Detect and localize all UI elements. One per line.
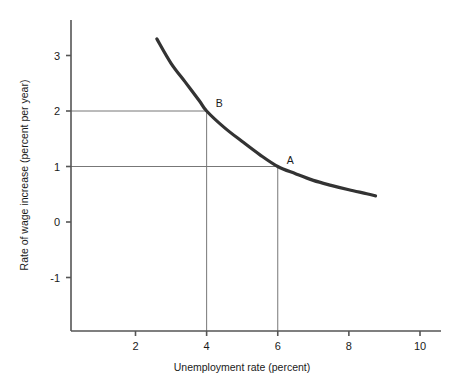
x-axis-tick-label: 10: [414, 340, 426, 352]
point-label-b: B: [216, 97, 223, 109]
y-axis-tick-label: 2: [54, 105, 60, 117]
x-axis-tick-label: 6: [275, 340, 281, 352]
y-axis-tick-label: 0: [54, 216, 60, 228]
x-axis-tick-label: 2: [132, 340, 138, 352]
x-axis-tick-label: 8: [346, 340, 352, 352]
y-axis-title: Rate of wage increase (percent per year): [18, 80, 30, 271]
point-label-a: A: [287, 154, 294, 166]
y-axis-tick-label: -1: [50, 272, 60, 284]
phillips-curve-chart: 3210-1 246810 B A Unemployment rate (per…: [0, 0, 464, 390]
chart-canvas: 3210-1 246810 B A Unemployment rate (per…: [0, 0, 464, 390]
y-axis-tick-label: 1: [54, 161, 60, 173]
y-axis-tick-label: 3: [54, 50, 60, 62]
x-axis-tick-label: 4: [204, 340, 210, 352]
x-axis-title: Unemployment rate (percent): [174, 361, 311, 373]
